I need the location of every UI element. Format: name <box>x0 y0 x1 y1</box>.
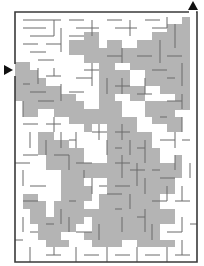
arrow-right-icon <box>4 65 13 75</box>
shaded-cell-group <box>15 62 99 132</box>
maze-puzzle <box>0 0 204 266</box>
arrow-up-icon <box>188 1 198 10</box>
maze-wall-segment <box>23 20 61 60</box>
shaded-cell-group <box>30 186 84 247</box>
maze-canvas <box>0 0 204 266</box>
